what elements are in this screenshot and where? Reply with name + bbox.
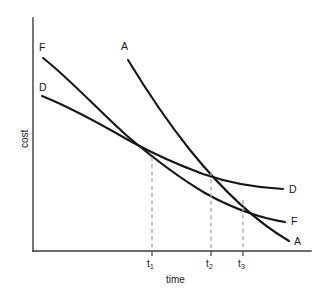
- curve-label-d-right: D: [289, 184, 297, 195]
- tick-label-t2-sub: 2: [209, 262, 213, 271]
- curve-label-f-right: F: [291, 216, 297, 227]
- curve-f: [43, 58, 285, 222]
- tick-label-t3-sub: 3: [241, 262, 245, 271]
- chart-plot-area: [0, 0, 330, 296]
- cost-time-chart: F D A D F A t1 t2 t3 time cost: [0, 0, 330, 296]
- tick-label-t1-sub: 1: [150, 262, 154, 271]
- curve-a: [128, 60, 289, 241]
- tick-label-t1: t1: [147, 259, 154, 269]
- x-axis-title: time: [166, 275, 185, 285]
- curve-label-a-top: A: [121, 41, 128, 52]
- y-axis-title: cost: [20, 130, 30, 148]
- curve-label-a-right: A: [294, 236, 301, 247]
- tick-label-t3: t3: [238, 259, 245, 269]
- tick-label-t2: t2: [206, 259, 213, 269]
- curve-d: [42, 96, 283, 189]
- curve-label-d-left: D: [39, 82, 47, 93]
- curve-label-f-left: F: [39, 42, 45, 53]
